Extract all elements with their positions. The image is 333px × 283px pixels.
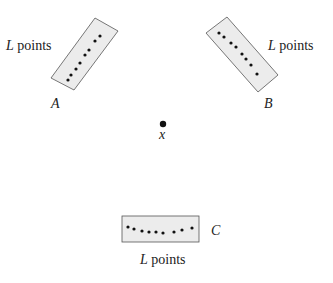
center-point: x xyxy=(158,121,166,142)
group-a: L points A xyxy=(5,18,118,111)
center-label: x xyxy=(158,127,166,142)
points-label-c: L points xyxy=(139,252,186,267)
group-c: C L points xyxy=(122,216,221,267)
points-label-b: L points xyxy=(267,38,314,53)
label-a: A xyxy=(50,96,60,111)
label-b: B xyxy=(264,96,273,111)
group-b: L points B xyxy=(206,17,314,111)
diagram-canvas: L points A L points B x C L points xyxy=(0,0,333,283)
points-label-a: L points xyxy=(5,38,52,53)
label-c: C xyxy=(211,223,221,238)
